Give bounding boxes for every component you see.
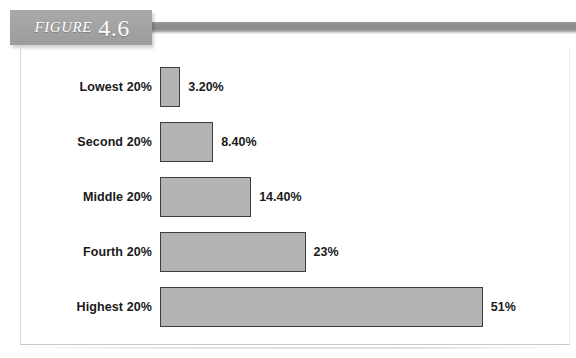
header-rule bbox=[150, 22, 576, 32]
bar-category-label: Lowest 20% bbox=[0, 66, 152, 108]
bar bbox=[160, 177, 251, 217]
bar-chart-plot: Lowest 20%3.20%Second 20%8.40%Middle 20%… bbox=[0, 58, 576, 338]
bar-row: Second 20%8.40% bbox=[0, 121, 576, 163]
bar-row: Lowest 20%3.20% bbox=[0, 66, 576, 108]
bar-track: 3.20% bbox=[160, 66, 224, 108]
bar bbox=[160, 232, 306, 272]
bar-track: 23% bbox=[160, 231, 339, 273]
bar-value-label: 23% bbox=[314, 245, 339, 259]
bar-value-label: 3.20% bbox=[188, 80, 223, 94]
figure-page: FIGURE 4.6 Lowest 20%3.20%Second 20%8.40… bbox=[0, 0, 576, 358]
bar-value-label: 14.40% bbox=[259, 190, 301, 204]
bar-value-label: 51% bbox=[491, 300, 516, 314]
bar-value-label: 8.40% bbox=[221, 135, 256, 149]
bar-category-label: Second 20% bbox=[0, 121, 152, 163]
bar bbox=[160, 122, 213, 162]
bar-track: 14.40% bbox=[160, 176, 302, 218]
chart-frame-shadow bbox=[20, 347, 565, 349]
bar-row: Highest 20%51% bbox=[0, 286, 576, 328]
header-rule-shadow bbox=[150, 32, 576, 34]
figure-banner: FIGURE 4.6 bbox=[10, 10, 152, 45]
bar-track: 8.40% bbox=[160, 121, 257, 163]
bar-category-label: Highest 20% bbox=[0, 286, 152, 328]
figure-caption-word: FIGURE bbox=[32, 19, 92, 36]
bar-row: Fourth 20%23% bbox=[0, 231, 576, 273]
figure-number: 4.6 bbox=[98, 15, 130, 42]
bar-track: 51% bbox=[160, 286, 516, 328]
bar-row: Middle 20%14.40% bbox=[0, 176, 576, 218]
bar-category-label: Fourth 20% bbox=[0, 231, 152, 273]
bar bbox=[160, 67, 180, 107]
bar-category-label: Middle 20% bbox=[0, 176, 152, 218]
bar bbox=[160, 287, 483, 327]
